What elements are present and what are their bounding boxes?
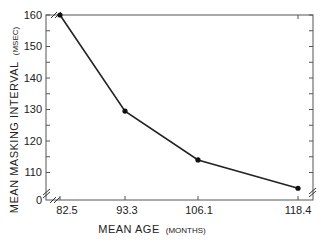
x-tick-label: 118.4 xyxy=(285,204,312,216)
y-axis-labels: 160 150 140 130 120 110 0 xyxy=(24,9,42,206)
data-series-line xyxy=(60,15,298,188)
data-point-marker xyxy=(295,186,300,191)
y-axis-ticks xyxy=(46,15,313,173)
y-tick-label: 160 xyxy=(24,9,42,21)
y-tick-label: 130 xyxy=(24,103,42,115)
data-point-marker xyxy=(122,108,127,113)
y-tick-label: 120 xyxy=(24,135,42,147)
x-axis-title: MEAN AGE(MONTHS) xyxy=(98,223,206,235)
y-tick-label: 110 xyxy=(24,166,42,178)
data-point-marker xyxy=(195,157,200,162)
x-tick-label: 82.5 xyxy=(56,204,77,216)
x-axis-ticks xyxy=(60,15,298,200)
x-tick-label: 93.3 xyxy=(116,204,137,216)
y-tick-label: 150 xyxy=(24,40,42,52)
y-tick-label: 0 xyxy=(36,194,42,206)
y-axis-title: MEAN MASKING INTERVAL(MSEC) xyxy=(8,26,20,213)
data-points xyxy=(57,12,300,190)
data-point-marker xyxy=(57,12,62,17)
x-axis-labels: 82.5 93.3 106.1 118.4 xyxy=(56,204,311,216)
x-tick-label: 106.1 xyxy=(185,204,213,216)
line-chart: 160 150 140 130 120 110 0 82.5 93.3 106.… xyxy=(0,0,325,243)
y-tick-label: 140 xyxy=(24,72,42,84)
plot-frame xyxy=(46,15,313,200)
